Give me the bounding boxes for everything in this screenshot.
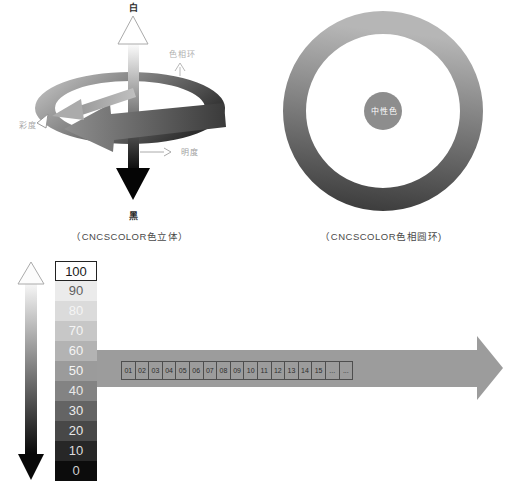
black-label: 黑 xyxy=(129,211,138,221)
scale-row: 60 xyxy=(55,341,97,361)
neutral-color-label: 中性色 xyxy=(371,106,398,116)
hue-cell: 02 xyxy=(135,361,150,380)
hue-cell: 01 xyxy=(121,361,136,380)
hue-cell: 04 xyxy=(162,361,177,380)
up-arrow-icon xyxy=(118,16,148,44)
lightness-pointer-arrow-icon xyxy=(164,148,171,156)
chroma-label: 彩度 xyxy=(19,120,37,130)
hue-ring-label: 色相环 xyxy=(169,49,196,59)
hue-cell: 12 xyxy=(271,361,286,380)
color-solid-diagram: 白 黑 色相环 彩度 明度 xyxy=(0,0,260,226)
page: 白 黑 色相环 彩度 明度 中性色 （CNCSCOLOR色立体） （CNCSCO… xyxy=(0,0,512,490)
hue-cell: 08 xyxy=(216,361,231,380)
lightness-double-arrow xyxy=(14,256,50,486)
hue-cell: 13 xyxy=(284,361,299,380)
scale-row: 0 xyxy=(55,461,97,481)
hue-circle-diagram: 中性色 xyxy=(280,8,486,214)
scale-row: 10 xyxy=(55,441,97,461)
lightness-axis-shaft-icon xyxy=(128,42,139,170)
double-arrow-shaft-icon xyxy=(25,282,37,456)
hue-cell: 09 xyxy=(230,361,245,380)
hue-cell: 14 xyxy=(298,361,313,380)
hue-cell: ... xyxy=(339,361,354,380)
hue-circle-caption: （CNCSCOLOR色相圆环) xyxy=(291,231,471,242)
white-label: 白 xyxy=(129,2,138,13)
scale-row: 90 xyxy=(55,281,97,301)
scale-row: 30 xyxy=(55,401,97,421)
scale-row: 80 xyxy=(55,301,97,321)
lightness-scale: 100 90 80 70 60 50 40 30 20 10 0 xyxy=(55,261,97,481)
color-solid-caption: （CNCSCOLOR色立体） xyxy=(40,231,220,242)
hue-cell: 03 xyxy=(148,361,163,380)
hue-cell: 10 xyxy=(243,361,258,380)
scale-row: 50 xyxy=(55,361,97,381)
scale-row: 100 xyxy=(55,261,97,281)
scale-row: 40 xyxy=(55,381,97,401)
scale-row: 20 xyxy=(55,421,97,441)
scale-row: 70 xyxy=(55,321,97,341)
double-arrow-up-head-icon xyxy=(18,262,44,284)
hue-cell: 07 xyxy=(203,361,218,380)
hue-cell: 15 xyxy=(311,361,326,380)
hue-cell: 05 xyxy=(175,361,190,380)
lightness-label: 明度 xyxy=(181,147,199,157)
hue-cell: 11 xyxy=(257,361,272,380)
hue-cell: 06 xyxy=(189,361,204,380)
hue-number-strip: 01 02 03 04 05 06 07 08 09 10 11 12 13 1… xyxy=(121,361,353,380)
bottom-caption-cropped: （CNCSCOLOR明度） xyxy=(200,486,360,490)
hue-cell: ... xyxy=(325,361,340,380)
down-arrow-icon xyxy=(116,168,150,200)
hue-axis-arrow-head-icon xyxy=(477,336,503,400)
double-arrow-down-head-icon xyxy=(18,454,44,480)
